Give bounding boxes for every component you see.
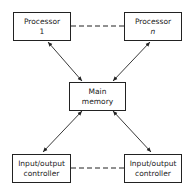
arrow-memory-io-left xyxy=(43,111,82,152)
io-controller-left-box: Input/output controller xyxy=(12,154,71,183)
multiprocessor-diagram: Processor 1 Processor n Main memory Inpu… xyxy=(0,0,192,192)
node-label-line1: Input/output xyxy=(18,159,65,169)
arrow-processorn-memory xyxy=(113,42,150,81)
node-label-line1: Processor xyxy=(24,17,60,27)
main-memory-box: Main memory xyxy=(69,82,126,111)
node-label-line2: memory xyxy=(82,97,113,107)
node-label-line2: n xyxy=(151,27,156,37)
node-label-line1: Processor xyxy=(135,17,171,27)
node-label-line2: controller xyxy=(135,169,171,179)
node-label-line1: Input/output xyxy=(130,159,177,169)
arrow-memory-io-right xyxy=(113,111,151,152)
arrow-processor1-memory xyxy=(48,42,82,81)
processor-n-box: Processor n xyxy=(124,12,182,41)
node-label-line1: Main xyxy=(89,87,107,97)
processor-1-box: Processor 1 xyxy=(13,12,71,41)
node-label-line2: 1 xyxy=(40,27,45,37)
io-controller-right-box: Input/output controller xyxy=(124,154,182,183)
node-label-line2: controller xyxy=(24,169,60,179)
